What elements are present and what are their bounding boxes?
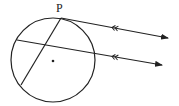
center-dot — [52, 60, 55, 63]
point-p-label: P — [56, 1, 63, 15]
chord-from-p — [21, 18, 61, 85]
geometry-diagram: P — [0, 0, 179, 106]
secant-line — [17, 40, 162, 65]
